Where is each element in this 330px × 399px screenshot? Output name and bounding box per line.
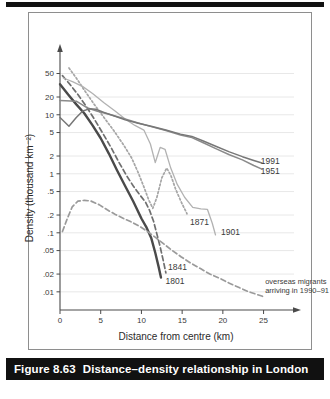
series-label-1991: 1991 (261, 156, 280, 166)
x-tick-label-0: 0 (58, 316, 63, 325)
series-group (60, 68, 264, 297)
figure-caption-bar: Figure 8.63 Distance–density relationshi… (6, 358, 324, 380)
y-tick-label-10: 10 (45, 111, 54, 120)
x-axis-arrow (293, 307, 301, 313)
series-label-1801: 1801 (166, 276, 185, 286)
x-axis-title: Distance from centre (km) (118, 331, 233, 342)
axes-group (57, 44, 301, 313)
y-tick-label-.05: .05 (43, 246, 55, 255)
x-tick-label-20: 20 (218, 316, 227, 325)
figure-caption-text: Distance–density relationship in London (83, 363, 309, 375)
distance-density-chart: 502010521.5.2.1.05.02.010510152025Distan… (0, 0, 330, 399)
series-label-1871: 1871 (190, 217, 209, 227)
series-label-1951: 1951 (261, 166, 280, 176)
y-tick-label-1: 1 (50, 170, 55, 179)
series-labels-group: 180118411871190119511991 (166, 156, 280, 285)
series-label-1841: 1841 (168, 262, 187, 272)
series-line-1951 (60, 100, 262, 169)
y-tick-labels-group: 502010521.5.2.1.05.02.01 (43, 69, 60, 296)
annotations-group: overseas migrantsarriving in 1990–91 (265, 277, 329, 295)
y-tick-label-.01: .01 (43, 288, 55, 297)
x-tick-labels-group: 0510152025 (58, 310, 269, 325)
series-line-1801 (60, 84, 161, 277)
figure-number: Figure 8.63 (14, 363, 76, 375)
annotation-overseas-migrants-line1: overseas migrants (265, 277, 327, 286)
y-tick-label-20: 20 (45, 93, 54, 102)
y-tick-label-5: 5 (50, 128, 55, 137)
y-tick-label-.5: .5 (47, 187, 54, 196)
x-tick-label-10: 10 (137, 316, 146, 325)
y-tick-label-2: 2 (50, 152, 55, 161)
x-tick-label-15: 15 (178, 316, 187, 325)
figure-container: 502010521.5.2.1.05.02.010510152025Distan… (0, 0, 330, 399)
y-tick-label-.1: .1 (47, 229, 54, 238)
y-axis-arrow (57, 44, 63, 52)
series-line-1901 (63, 78, 215, 235)
series-label-1901: 1901 (221, 227, 240, 237)
x-tick-label-25: 25 (259, 316, 268, 325)
y-tick-label-.02: .02 (43, 270, 55, 279)
y-tick-label-50: 50 (45, 69, 54, 78)
y-axis-title: Density (thousand km⁻²) (24, 134, 35, 242)
y-tick-label-.2: .2 (47, 211, 54, 220)
x-tick-label-5: 5 (98, 316, 103, 325)
annotation-overseas-migrants-line2: arriving in 1990–91 (265, 286, 329, 295)
